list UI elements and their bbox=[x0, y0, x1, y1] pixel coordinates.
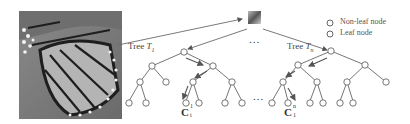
tree-n-leaf-label-sub: 1 bbox=[293, 112, 296, 118]
leaf-node bbox=[196, 100, 202, 106]
non-leaf-node bbox=[344, 79, 350, 85]
tree-1-leaf-label: C1i bbox=[181, 106, 194, 118]
leaf-node bbox=[222, 100, 228, 106]
non-leaf-node bbox=[295, 62, 301, 68]
tree-1-label-sub: 1 bbox=[151, 47, 154, 53]
non-leaf-node bbox=[210, 63, 216, 69]
non-leaf-node bbox=[190, 79, 196, 85]
image-patch bbox=[248, 11, 261, 24]
non-leaf-node bbox=[280, 79, 286, 85]
legend-non-leaf-label: Non-leaf node bbox=[340, 17, 386, 26]
leaf-node bbox=[143, 100, 149, 106]
non-leaf-node bbox=[229, 79, 235, 85]
leaf-node bbox=[126, 100, 132, 106]
leaf-node bbox=[239, 100, 245, 106]
tree-n-leaf-label-sup: n bbox=[293, 103, 296, 109]
ellipsis-top: ... bbox=[249, 33, 260, 45]
leaf-node bbox=[269, 100, 275, 106]
tree-1-label-prefix: Tree bbox=[128, 41, 146, 51]
legend-non-leaf-icon bbox=[327, 20, 333, 26]
tree-1-root-node bbox=[181, 49, 187, 55]
tree-n-leaf-label: Cn1 bbox=[284, 106, 297, 118]
tree-1-leaf-label-sub: i bbox=[190, 112, 192, 118]
leaf-node bbox=[383, 79, 389, 85]
legend-leaf-icon bbox=[327, 31, 333, 37]
tree-n-label-prefix: Tree bbox=[287, 41, 305, 51]
leaf-node bbox=[350, 100, 356, 106]
leaf-node bbox=[163, 79, 169, 85]
tree-1-decision-path bbox=[183, 58, 207, 99]
legend-leaf-label: Leaf node bbox=[340, 28, 372, 37]
tree-1-leaf-label-main: C bbox=[181, 106, 189, 118]
leaf-node bbox=[307, 100, 313, 106]
tree-1-leaf-label-sup: 1 bbox=[190, 103, 193, 109]
tree-n-label-sub: n bbox=[310, 47, 313, 53]
tree-1-label: Tree T1 bbox=[128, 41, 154, 53]
tree-n-root-node bbox=[328, 48, 334, 54]
leaf-node bbox=[337, 100, 343, 106]
patch-to-tree1-arrow bbox=[188, 29, 247, 49]
leaf-node bbox=[320, 100, 326, 106]
non-leaf-node bbox=[137, 79, 143, 85]
tree-1 bbox=[126, 49, 245, 106]
ellipsis-middle: ... bbox=[253, 90, 264, 102]
butterfly-wing-image bbox=[19, 11, 122, 119]
non-leaf-node bbox=[149, 63, 155, 69]
tree-n-leaf-label-main: C bbox=[284, 106, 292, 118]
non-leaf-node bbox=[314, 79, 320, 85]
random-forest-diagram: Non-leaf node Leaf node Tree T1 Tree Tn … bbox=[0, 0, 410, 124]
tree-n-label: Tree Tn bbox=[287, 41, 313, 53]
non-leaf-node bbox=[362, 62, 368, 68]
